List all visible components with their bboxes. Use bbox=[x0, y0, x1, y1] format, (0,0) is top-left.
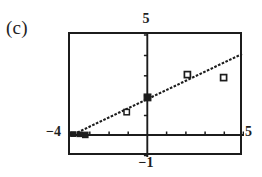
x-axis-min-label: −4 bbox=[46, 124, 61, 139]
x-axis-max-label: 5 bbox=[245, 124, 252, 139]
figure-panel-c: (c) bbox=[0, 0, 262, 177]
data-point-markers bbox=[71, 72, 227, 138]
data-point-marker bbox=[144, 94, 151, 101]
data-point-marker bbox=[83, 132, 88, 137]
y-axis-max-label: 5 bbox=[15, 11, 262, 26]
plot-canvas bbox=[70, 34, 244, 157]
fitted-regression-line bbox=[70, 54, 242, 136]
data-point-marker bbox=[221, 75, 227, 81]
data-point-marker bbox=[124, 109, 129, 114]
data-point-marker bbox=[77, 132, 82, 137]
data-point-marker bbox=[71, 132, 76, 137]
y-axis-min-label: −1 bbox=[15, 155, 262, 170]
plot-frame bbox=[68, 32, 242, 155]
data-point-marker bbox=[184, 72, 190, 78]
